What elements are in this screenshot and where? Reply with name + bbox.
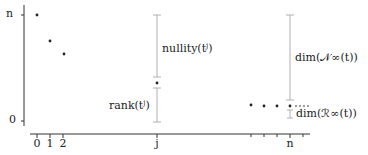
y-label-0: 0 [9, 114, 16, 126]
nullity-label: nullity(tj) [162, 40, 213, 55]
rank-bracket [153, 88, 161, 122]
nullity-bracket [153, 15, 161, 77]
rank-label: rank(tj) [109, 97, 150, 112]
x-label-j: j [155, 138, 158, 150]
diagram-canvas [0, 0, 368, 155]
data-points [36, 14, 292, 108]
dim-r-infinity-label: dim(ℛ∞(t)) [296, 108, 357, 120]
dim-n-infinity-label: dim(𝒩∞(t)) [295, 52, 358, 64]
x-label-1: 1 [47, 138, 54, 150]
x-ticks [37, 134, 303, 138]
x-label-2: 2 [60, 138, 67, 150]
x-label-n: n [286, 138, 293, 150]
y-label-n: n [6, 8, 13, 20]
x-label-0: 0 [34, 138, 41, 150]
dim-r-infinity-bracket [287, 110, 293, 118]
dim-n-infinity-bracket [286, 15, 294, 100]
